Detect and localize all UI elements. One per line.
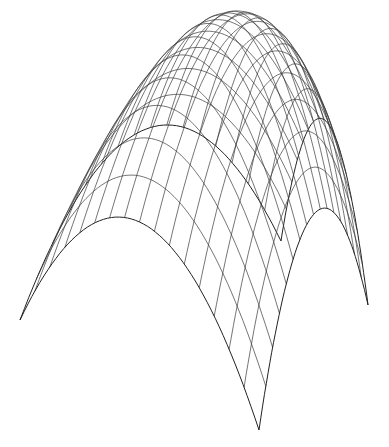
grid-line-v <box>183 12 327 208</box>
grid-line-u <box>214 99 352 316</box>
grid-line-u <box>50 69 292 267</box>
grid-line-v <box>167 11 320 209</box>
grid-line-v <box>281 118 368 305</box>
surface-mesh <box>20 11 368 430</box>
wireframe-surface-plot <box>0 0 389 447</box>
grid-line-u <box>184 51 340 264</box>
grid-line-u <box>259 208 368 430</box>
grid-line-u <box>199 73 346 288</box>
grid-line-u <box>20 125 281 320</box>
grid-line-v <box>232 44 348 235</box>
grid-line-u <box>35 94 287 291</box>
grid-line-v <box>53 138 273 348</box>
grid-line-v <box>102 55 294 260</box>
grid-line-u <box>65 48 297 248</box>
grid-line-v <box>69 105 280 313</box>
grid-line-u <box>244 167 363 387</box>
